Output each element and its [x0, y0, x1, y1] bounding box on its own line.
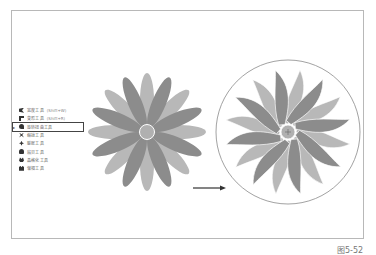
illustration	[0, 0, 376, 255]
figure-caption: 图5-52	[337, 244, 363, 255]
arrow-icon	[193, 186, 226, 191]
flower-before	[88, 73, 206, 191]
flower-after	[216, 60, 360, 204]
